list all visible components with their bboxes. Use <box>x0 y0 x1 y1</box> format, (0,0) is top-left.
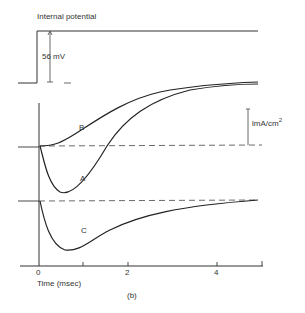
x-axis-label: Time (msec) <box>37 279 81 288</box>
figure-canvas <box>0 0 305 313</box>
step-label: 56 mV <box>42 52 65 61</box>
scale-label-text: lmA/cm <box>252 119 279 128</box>
curve-a <box>40 84 258 193</box>
baseline-c-dashed <box>39 200 258 201</box>
x-tick-label-2: 2 <box>125 268 129 277</box>
panel-label: (b) <box>127 291 137 300</box>
curve-b <box>40 82 258 146</box>
scale-label: lmA/cm2 <box>252 117 282 128</box>
baseline-ab-dashed <box>39 145 262 146</box>
curve-label-b: B <box>79 123 84 132</box>
curve-label-c: C <box>81 226 87 235</box>
x-tick-label-4: 4 <box>214 268 218 277</box>
curve-label-a: A <box>80 174 85 183</box>
curve-c <box>40 200 258 250</box>
x-tick-label-0: 0 <box>36 268 40 277</box>
scale-label-sup: 2 <box>279 117 282 123</box>
chart-title: Internal potential <box>37 12 96 21</box>
